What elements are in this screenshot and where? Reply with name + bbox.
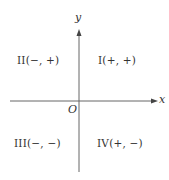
axes-graphic [0,0,169,180]
quadrant-IV-label: IV(+, −) [97,138,143,149]
coordinate-plane-diagram: y x O II(−, +) I(+, +) III(−, −) IV(+, −… [0,0,169,180]
origin-label: O [68,104,77,115]
x-axis-arrow-icon [151,99,158,104]
y-axis-arrow-icon [77,29,82,36]
quadrant-III-label: III(−, −) [14,138,61,149]
y-axis-label: y [75,12,81,23]
x-axis-label: x [159,94,165,105]
quadrant-II-label: II(−, +) [17,55,59,66]
quadrant-I-label: I(+, +) [98,55,136,66]
